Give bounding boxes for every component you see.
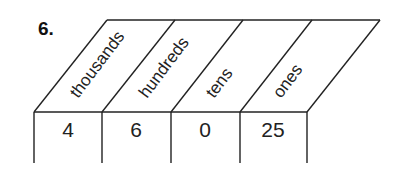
cell-ones: 25 — [239, 118, 307, 142]
cell-hundreds: 6 — [102, 118, 170, 142]
cell-tens: 0 — [171, 118, 239, 142]
cell-thousands: 4 — [34, 118, 102, 142]
place-value-chart-lines — [0, 0, 395, 175]
